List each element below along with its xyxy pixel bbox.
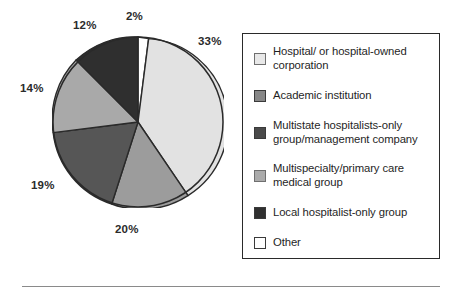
legend-label-local-hospitalist: Local hospitalist-only group (273, 206, 407, 220)
legend-label-hospital-owned: Hospital/ or hospital-owned corporation (273, 45, 431, 73)
legend-items-container: Hospital/ or hospital-owned corporation … (254, 45, 431, 250)
footer-divider (22, 286, 440, 287)
pie-label-20-percent: 20% (115, 224, 139, 236)
pie-label-33-percent: 33% (198, 36, 222, 48)
pie-label-14-percent: 14% (20, 83, 44, 95)
legend-label-multistate-hospitalists: Multistate hospitalists-only group/manag… (273, 119, 431, 147)
legend-item-other: Other (254, 236, 431, 250)
legend-swatch-multispecialty (254, 170, 266, 182)
legend-item-multispecialty: Multispecialty/primary care medical grou… (254, 162, 431, 190)
legend-item-local-hospitalist: Local hospitalist-only group (254, 206, 431, 220)
legend-swatch-hospital-owned (254, 53, 266, 65)
pie-chart-figure: 2% 33% 20% 19% 14% 12% Hospital/ or hosp… (0, 0, 455, 293)
pie-label-19-percent: 19% (31, 180, 55, 192)
legend-swatch-academic-institution (254, 90, 266, 102)
legend-swatch-other (254, 237, 266, 249)
legend-swatch-local-hospitalist (254, 207, 266, 219)
pie-chart-graphic (52, 36, 224, 208)
pie-svg (52, 36, 224, 208)
legend-label-academic-institution: Academic institution (273, 89, 371, 103)
legend-item-hospital-owned: Hospital/ or hospital-owned corporation (254, 45, 431, 73)
pie-label-2-percent: 2% (126, 11, 143, 23)
pie-label-12-percent: 12% (73, 20, 97, 32)
chart-legend: Hospital/ or hospital-owned corporation … (242, 33, 440, 259)
legend-label-multispecialty: Multispecialty/primary care medical grou… (273, 162, 431, 190)
legend-swatch-multistate-hospitalists (254, 127, 266, 139)
legend-label-other: Other (273, 236, 301, 250)
legend-item-academic-institution: Academic institution (254, 89, 431, 103)
legend-item-multistate-hospitalists: Multistate hospitalists-only group/manag… (254, 119, 431, 147)
